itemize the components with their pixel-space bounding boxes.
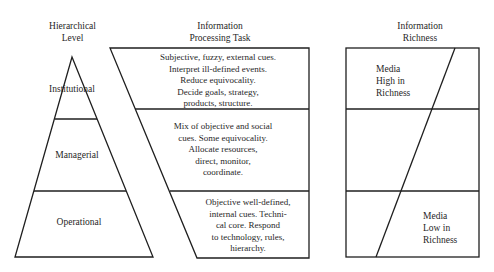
level-operational: Operational [29, 216, 129, 228]
richness-low-label: Media Low in Richness [423, 210, 483, 246]
richness-high-label: Media High in Richness [376, 63, 436, 99]
level-institutional: Institutional [22, 83, 122, 95]
task-managerial: Mix of objective and social cues. Some e… [148, 121, 298, 179]
task-operational: Objective well-defined, internal cues. T… [188, 197, 308, 255]
header-information-processing-task: Information Processing Task [155, 20, 285, 44]
level-managerial: Managerial [27, 149, 127, 161]
header-hierarchical-level: Hierarchical Level [30, 20, 115, 44]
task-institutional: Subjective, fuzzy, external cues. Interp… [128, 52, 308, 110]
header-information-richness: Information Richness [370, 20, 470, 44]
